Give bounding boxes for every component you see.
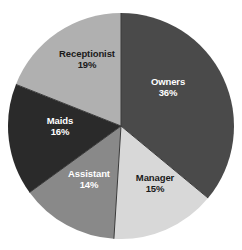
pie-chart: Owners36%Manager15%Assistant14%Maids16%R… xyxy=(0,0,242,250)
pie-chart-svg xyxy=(0,0,242,250)
